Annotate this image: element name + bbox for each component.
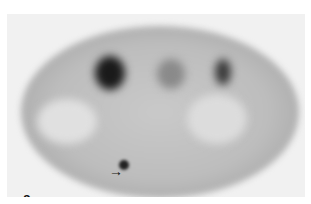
scan-panel: → a <box>7 14 305 197</box>
arrow-icon: → <box>109 164 123 178</box>
panel-label: a <box>23 190 31 197</box>
hotspot-right <box>215 59 231 85</box>
hotspot-left <box>95 56 125 90</box>
light-region-right <box>187 94 247 144</box>
hotspot-center <box>157 59 185 89</box>
light-region-left <box>37 99 97 144</box>
